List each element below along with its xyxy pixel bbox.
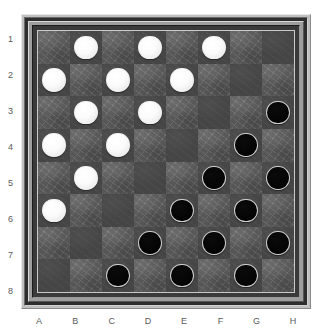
board-square-c7[interactable] (102, 227, 134, 260)
board-square-h5[interactable] (262, 162, 294, 195)
board-square-b5[interactable] (70, 162, 102, 195)
board-square-f1[interactable] (198, 31, 230, 64)
rank-label-4: 4 (0, 129, 21, 165)
board-frame-bevel-3 (28, 21, 304, 302)
board-square-a5[interactable] (38, 162, 70, 195)
board-square-b4[interactable] (70, 129, 102, 162)
board-square-c1[interactable] (102, 31, 134, 64)
board-square-d4[interactable] (134, 129, 166, 162)
file-label-d: D (130, 309, 166, 336)
board-square-g1[interactable] (230, 31, 262, 64)
black-checker-piece[interactable] (266, 231, 289, 254)
file-label-e: E (166, 309, 202, 336)
rank-label-1: 1 (0, 21, 21, 57)
board-square-h6[interactable] (262, 194, 294, 227)
black-checker-piece[interactable] (170, 199, 193, 222)
white-checker-piece[interactable] (138, 101, 161, 124)
board-square-d5[interactable] (134, 162, 166, 195)
board-square-g3[interactable] (230, 96, 262, 129)
board-square-a2[interactable] (38, 64, 70, 97)
white-checker-piece[interactable] (42, 199, 65, 222)
board-square-c3[interactable] (102, 96, 134, 129)
board-square-f6[interactable] (198, 194, 230, 227)
black-checker-piece[interactable] (106, 264, 129, 287)
board-square-a3[interactable] (38, 96, 70, 129)
file-label-a: A (21, 309, 57, 336)
board-square-b1[interactable] (70, 31, 102, 64)
board-square-f3[interactable] (198, 96, 230, 129)
board-frame-bevel-4 (32, 25, 300, 298)
board-square-e7[interactable] (166, 227, 198, 260)
board-square-b3[interactable] (70, 96, 102, 129)
black-checker-piece[interactable] (234, 264, 257, 287)
board-square-g8[interactable] (230, 259, 262, 292)
board-frame-inner-rule (37, 30, 295, 293)
black-checker-piece[interactable] (138, 231, 161, 254)
board-square-e6[interactable] (166, 194, 198, 227)
board-square-h4[interactable] (262, 129, 294, 162)
board-square-e2[interactable] (166, 64, 198, 97)
board-square-d7[interactable] (134, 227, 166, 260)
file-label-f: F (202, 309, 238, 336)
board-square-f8[interactable] (198, 259, 230, 292)
board-square-g4[interactable] (230, 129, 262, 162)
board-square-a7[interactable] (38, 227, 70, 260)
board-square-g2[interactable] (230, 64, 262, 97)
white-checker-piece[interactable] (106, 68, 129, 91)
board-square-h3[interactable] (262, 96, 294, 129)
board-square-b6[interactable] (70, 194, 102, 227)
board-square-b2[interactable] (70, 64, 102, 97)
board-square-g6[interactable] (230, 194, 262, 227)
file-label-b: B (57, 309, 93, 336)
white-checker-piece[interactable] (170, 68, 193, 91)
board-square-a8[interactable] (38, 259, 70, 292)
board-square-e1[interactable] (166, 31, 198, 64)
board-square-d1[interactable] (134, 31, 166, 64)
black-checker-piece[interactable] (234, 199, 257, 222)
board-square-d8[interactable] (134, 259, 166, 292)
board-square-h7[interactable] (262, 227, 294, 260)
board-square-c4[interactable] (102, 129, 134, 162)
white-checker-piece[interactable] (202, 36, 225, 59)
board-square-e5[interactable] (166, 162, 198, 195)
white-checker-piece[interactable] (74, 166, 97, 189)
board-square-f5[interactable] (198, 162, 230, 195)
board-square-b8[interactable] (70, 259, 102, 292)
black-checker-piece[interactable] (234, 133, 257, 156)
black-checker-piece[interactable] (266, 166, 289, 189)
board-square-c8[interactable] (102, 259, 134, 292)
black-checker-piece[interactable] (202, 231, 225, 254)
black-checker-piece[interactable] (202, 166, 225, 189)
board-square-g5[interactable] (230, 162, 262, 195)
board-square-h2[interactable] (262, 64, 294, 97)
board-square-d2[interactable] (134, 64, 166, 97)
black-checker-piece[interactable] (170, 264, 193, 287)
white-checker-piece[interactable] (74, 36, 97, 59)
board-square-d3[interactable] (134, 96, 166, 129)
board-square-a4[interactable] (38, 129, 70, 162)
board-square-e3[interactable] (166, 96, 198, 129)
board-square-e4[interactable] (166, 129, 198, 162)
board-square-c5[interactable] (102, 162, 134, 195)
board-square-c2[interactable] (102, 64, 134, 97)
board-square-c6[interactable] (102, 194, 134, 227)
black-checker-piece[interactable] (266, 101, 289, 124)
board-square-b7[interactable] (70, 227, 102, 260)
board-square-g7[interactable] (230, 227, 262, 260)
white-checker-piece[interactable] (74, 101, 97, 124)
board-square-d6[interactable] (134, 194, 166, 227)
board-square-f4[interactable] (198, 129, 230, 162)
board-square-a1[interactable] (38, 31, 70, 64)
rank-label-8: 8 (0, 273, 21, 309)
white-checker-piece[interactable] (138, 36, 161, 59)
board-square-h1[interactable] (262, 31, 294, 64)
white-checker-piece[interactable] (42, 68, 65, 91)
white-checker-piece[interactable] (42, 133, 65, 156)
board-square-e8[interactable] (166, 259, 198, 292)
board-square-f7[interactable] (198, 227, 230, 260)
board-square-h8[interactable] (262, 259, 294, 292)
white-checker-piece[interactable] (106, 133, 129, 156)
board-square-f2[interactable] (198, 64, 230, 97)
board-square-a6[interactable] (38, 194, 70, 227)
file-label-row: ABCDEFGH (21, 309, 311, 336)
